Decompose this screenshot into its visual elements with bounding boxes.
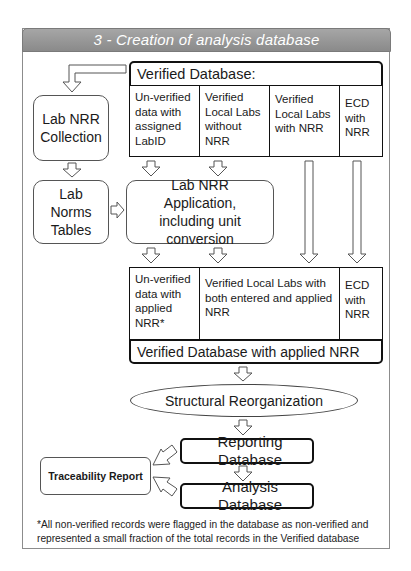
diagram-title: 3 - Creation of analysis database — [22, 28, 391, 52]
verified-db-applied-nrr-label: Verified Database with applied NRR — [137, 343, 360, 361]
verified-col-local-without-nrr: Verified Local Labs without NRR — [199, 85, 271, 157]
applied-col-unverified: Un-verified data with applied NRR* — [129, 267, 201, 340]
lab-norms-tables-box: Lab Norms Tables — [33, 180, 109, 244]
applied-col-ecd: ECD with NRR — [339, 267, 383, 340]
footnote: *All non-verified records were flagged i… — [37, 518, 387, 546]
verified-database-label: Verified Database: — [137, 65, 256, 83]
lab-nrr-collection-box: Lab NRR Collection — [33, 95, 109, 161]
lab-nrr-application-box: Lab NRR Application, including unit conv… — [126, 180, 274, 244]
analysis-database-box: Analysis Database — [180, 483, 314, 509]
verified-col-unverified: Un-verified data with assigned LabID — [129, 85, 201, 157]
verified-db-applied-nrr-box: Verified Database with applied NRR — [129, 339, 383, 364]
reporting-database-box: Reporting Database — [180, 438, 314, 464]
applied-col-local-labs: Verified Local Labs with both entered an… — [199, 267, 341, 340]
traceability-report-box: Traceability Report — [40, 457, 151, 495]
verified-col-local-with-nrr: Verified Local Labs with NRR — [269, 85, 341, 157]
verified-col-ecd-with-nrr: ECD with NRR — [339, 85, 383, 157]
verified-database-header: Verified Database: — [129, 61, 383, 87]
structural-reorganization-ellipse: Structural Reorganization — [130, 384, 358, 417]
